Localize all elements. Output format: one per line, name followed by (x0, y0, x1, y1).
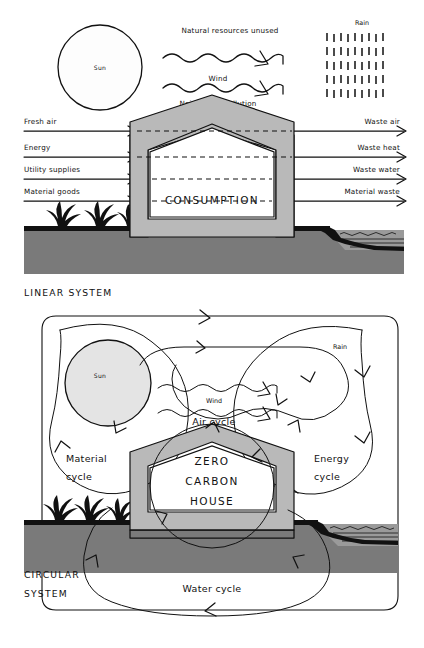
caption-circular-1: CIRCULAR (24, 569, 80, 580)
input-flow-utility: Utility supplies (24, 165, 137, 184)
house-circular-label-3: HOUSE (190, 495, 234, 507)
sun-circular-group: Sun (65, 340, 151, 426)
sun-circular-label: Sun (94, 372, 107, 379)
house-linear-label: CONSUMPTION (165, 194, 259, 206)
plants-circular (43, 495, 137, 520)
cycle-label-material-1: Material (66, 453, 107, 464)
input-label-3: Material goods (24, 187, 80, 196)
wind-arrow-circular-1 (158, 382, 277, 396)
cycle-label-water: Water cycle (183, 583, 242, 594)
panel-circular: Sun Rain Wind Air cycle Materia (24, 310, 398, 616)
house-linear: CONSUMPTION (130, 95, 294, 237)
air-cycle-loop (140, 341, 349, 420)
wind-label-circular: Wind (206, 397, 222, 405)
house-circular: ZERO CARBON HOUSE (130, 424, 294, 538)
caption-circular-2: SYSTEM (24, 588, 68, 599)
input-flow-material: Material goods (24, 187, 137, 206)
house-circular-label-2: CARBON (185, 475, 238, 487)
input-label-1: Energy (24, 143, 51, 152)
caption-linear: LINEAR SYSTEM (24, 287, 112, 298)
frame-arrow-top (199, 310, 210, 324)
output-label-3: Material waste (344, 187, 400, 196)
diagram-canvas: Sun Natural resources unused Wind Noise … (0, 0, 424, 648)
input-label-0: Fresh air (24, 117, 57, 126)
cycle-label-energy-2: cycle (314, 471, 340, 482)
diagram-svg: Sun Natural resources unused Wind Noise … (0, 0, 424, 648)
output-flow-waste-water: Waste water (292, 165, 406, 184)
input-flow-energy: Energy (24, 143, 137, 162)
rain-label-circular: Rain (333, 343, 347, 351)
output-flow-waste-air: Waste air (292, 117, 406, 136)
wind-arrow-linear-1 (163, 51, 283, 66)
wind-label-linear: Wind (209, 74, 228, 83)
input-flow-fresh-air: Fresh air (24, 117, 137, 136)
input-label-2: Utility supplies (24, 165, 80, 174)
rain-label-linear: Rain (355, 19, 369, 27)
rain-drops-linear (327, 33, 383, 98)
cycle-label-material-2: cycle (66, 471, 92, 482)
cycle-label-energy-1: Energy (314, 453, 349, 464)
output-label-2: Waste water (353, 165, 400, 174)
output-flow-material-waste: Material waste (292, 187, 406, 206)
sun-circular-icon (65, 340, 151, 426)
output-label-1: Waste heat (357, 143, 400, 152)
wind-arrow-linear-2 (163, 81, 283, 96)
house-circular-label-1: ZERO (195, 455, 230, 467)
panel-linear: Sun Natural resources unused Wind Noise … (24, 19, 406, 298)
output-flow-waste-heat: Waste heat (292, 143, 406, 162)
natural-resources-label: Natural resources unused (181, 26, 278, 35)
sun-linear-label: Sun (94, 64, 107, 71)
sun-linear-group: Sun (58, 25, 142, 110)
output-label-0: Waste air (365, 117, 400, 126)
